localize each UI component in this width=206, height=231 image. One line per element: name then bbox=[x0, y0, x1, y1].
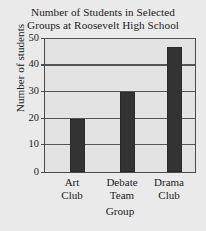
chart-title-line-1: Number of Students in Selected bbox=[8, 6, 198, 19]
y-axis-title: Number of students bbox=[14, 0, 26, 138]
y-tick-label-10: 10 bbox=[29, 139, 40, 150]
gridline-50: 50 bbox=[45, 38, 195, 39]
bar-art-club bbox=[70, 119, 85, 172]
y-tick-label-40: 40 bbox=[29, 59, 40, 70]
x-category-art-club: Art Club bbox=[44, 176, 100, 201]
x-category-drama-club-line-2: Club bbox=[141, 189, 197, 202]
y-tick-label-50: 50 bbox=[29, 33, 40, 44]
chart-title: Number of Students in Selected Groups at… bbox=[8, 6, 198, 32]
y-tick-label-30: 30 bbox=[29, 86, 40, 97]
x-category-drama-club-line-1: Drama bbox=[141, 176, 197, 189]
x-category-art-club-line-1: Art bbox=[44, 176, 100, 189]
y-tick-mark-10 bbox=[41, 144, 45, 145]
y-tick-mark-20 bbox=[41, 118, 45, 119]
bar-drama-club bbox=[167, 47, 182, 172]
y-tick-mark-30 bbox=[41, 91, 45, 92]
y-tick-label-20: 20 bbox=[29, 112, 40, 123]
x-category-drama-club: Drama Club bbox=[141, 176, 197, 201]
plot-area: 50 40 30 20 10 0 bbox=[44, 38, 196, 173]
x-axis-title: Group bbox=[44, 205, 196, 217]
bar-debate-team bbox=[120, 92, 135, 172]
y-tick-mark-0 bbox=[41, 172, 45, 173]
bar-chart-figure: Number of Students in Selected Groups at… bbox=[0, 0, 206, 231]
y-tick-mark-40 bbox=[41, 64, 45, 65]
x-category-art-club-line-2: Club bbox=[44, 189, 100, 202]
chart-title-line-2: Groups at Roosevelt High School bbox=[8, 19, 198, 32]
y-tick-mark-50 bbox=[41, 38, 45, 39]
y-tick-label-0: 0 bbox=[34, 167, 39, 178]
